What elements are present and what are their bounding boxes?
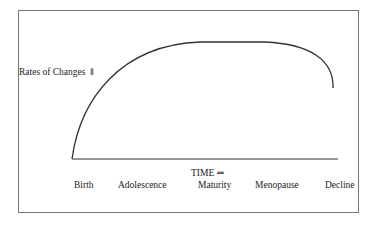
x-axis-label: TIME ⇒ <box>191 169 225 179</box>
stage-decline: Decline <box>325 181 355 191</box>
y-axis-label: Rates of Changes ⇑ <box>19 68 96 78</box>
life-stages-diagram: Rates of Changes ⇑ TIME ⇒ Birth Adolesce… <box>0 0 378 227</box>
growth-curve <box>72 42 333 159</box>
stage-adolescence: Adolescence <box>118 181 167 191</box>
rate-curve <box>0 0 378 227</box>
stage-maturity: Maturity <box>198 181 231 191</box>
stage-menopause: Menopause <box>255 181 299 191</box>
stage-birth: Birth <box>74 181 94 191</box>
